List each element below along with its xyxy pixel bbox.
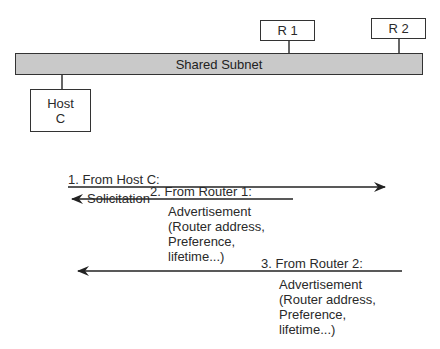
host-label-line1: Host (47, 96, 74, 111)
msg3-body-line: Advertisement (279, 277, 376, 292)
router-1-label: R 1 (277, 23, 297, 38)
msg3-step: 3. From Router 2: (261, 256, 363, 271)
msg3-body-line: (Router address, (279, 292, 376, 307)
host-c-box: Host C (30, 89, 91, 132)
msg2-body-line: Preference, (168, 234, 265, 249)
shared-subnet-bar: Shared Subnet (15, 53, 423, 75)
host-label-line2: C (56, 111, 65, 126)
router-2-box: R 2 (371, 18, 426, 39)
msg3-body-line: lifetime...) (279, 322, 376, 337)
msg2-step: 2. From Router 1: (150, 184, 252, 199)
subnet-label: Shared Subnet (176, 57, 263, 72)
msg1-body: Solicitation (87, 191, 150, 206)
msg1-body-line: Solicitation (87, 191, 150, 206)
msg2-body-line: lifetime...) (168, 249, 265, 264)
msg1-step: 1. From Host C: (68, 172, 160, 187)
msg2-body-line: (Router address, (168, 219, 265, 234)
router-1-box: R 1 (260, 20, 315, 41)
msg3-body-line: Preference, (279, 307, 376, 322)
msg2-body-line: Advertisement (168, 204, 265, 219)
msg3-body: Advertisement (Router address, Preferenc… (279, 277, 376, 337)
msg2-body: Advertisement (Router address, Preferenc… (168, 204, 265, 264)
router-2-label: R 2 (388, 21, 408, 36)
